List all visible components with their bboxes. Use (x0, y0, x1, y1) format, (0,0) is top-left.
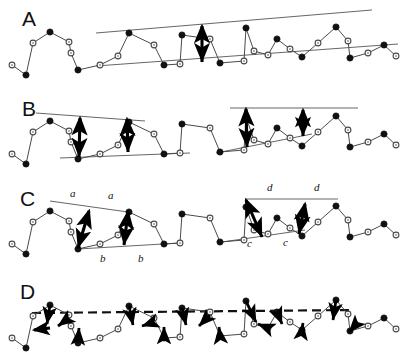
data-point-open-center (179, 336, 181, 338)
data-point-filled (243, 25, 249, 31)
data-point-filled (347, 144, 353, 150)
data-point-open-center (317, 42, 319, 44)
data-point-open-center (347, 313, 349, 315)
data-point-open-center (317, 315, 319, 317)
data-point-open-center (153, 317, 155, 319)
data-point-filled (333, 113, 339, 119)
data-point-open-center (253, 323, 255, 325)
data-point-open-center (347, 129, 349, 131)
data-point-open-center (395, 328, 397, 330)
data-point-filled (217, 60, 223, 66)
envelope-lower-right (222, 230, 305, 242)
data-point-filled (179, 121, 185, 127)
d-arrow-15 (333, 300, 336, 320)
data-point-open-center (347, 219, 349, 221)
d-arrow-1 (34, 328, 50, 330)
data-point-open-center (243, 239, 245, 241)
data-point-open-center (117, 144, 119, 146)
data-point-open-center (179, 63, 181, 65)
data-point-open-center (367, 325, 369, 327)
data-point-open-center (243, 60, 245, 62)
data-point-filled (23, 251, 29, 257)
panel-letter-C: C (20, 187, 35, 210)
data-point-filled (47, 29, 53, 35)
data-point-open-center (68, 41, 70, 43)
amplitude-arrow-b1 (79, 118, 80, 157)
label-d-left: d (267, 181, 273, 193)
label-b-right: b (138, 252, 144, 264)
data-point-filled (161, 241, 167, 247)
data-point-filled (381, 221, 387, 227)
data-point-open-center (11, 153, 13, 155)
data-point-filled (217, 149, 223, 155)
data-point-open-center (317, 131, 319, 133)
data-point-filled (161, 62, 167, 68)
data-point-open-center (117, 328, 119, 330)
data-point-open-center (209, 311, 211, 313)
data-point-open-center (99, 243, 101, 245)
data-point-filled (274, 125, 280, 131)
data-point-filled (299, 143, 305, 149)
data-point-open-center (367, 231, 369, 233)
amplitude-arrow-c2 (299, 204, 305, 234)
amplitude-arrow-a1 (78, 211, 89, 248)
panel-C: Caabbddcc (9, 181, 399, 264)
figure-canvas: ABCaabbddccD (0, 0, 412, 356)
d-arrow-9 (199, 315, 210, 326)
d-arrow-14 (302, 323, 303, 330)
data-point-open-center (153, 44, 155, 46)
data-point-filled (75, 67, 81, 73)
amplitude-arrow-b3 (246, 109, 247, 147)
data-point-open-center (243, 333, 245, 335)
data-point-open-center (68, 130, 70, 132)
label-d-right: d (314, 181, 320, 193)
label-b-left: b (100, 252, 106, 264)
data-point-open-center (347, 40, 349, 42)
data-point-filled (23, 345, 29, 351)
data-point-open-center (317, 221, 319, 223)
data-point-filled (23, 72, 29, 78)
data-point-filled (161, 151, 167, 157)
data-point-open-center (395, 144, 397, 146)
data-point-open-center (32, 131, 34, 133)
panel-B: B (9, 97, 399, 167)
data-point-open-center (99, 337, 101, 339)
data-point-filled (274, 36, 280, 42)
data-point-filled (381, 131, 387, 137)
data-point-open-center (11, 64, 13, 66)
d-arrow-4 (78, 328, 79, 343)
data-point-open-center (70, 141, 72, 143)
amplitude-arrow-b2 (127, 119, 128, 152)
data-point-filled (126, 30, 132, 36)
d-arrow-3 (58, 318, 69, 326)
data-point-open-center (179, 242, 181, 244)
data-point-filled (347, 234, 353, 240)
data-point-open-center (99, 64, 101, 66)
panel-letter-A: A (22, 7, 36, 30)
data-point-open-center (289, 137, 291, 139)
data-point-open-center (367, 52, 369, 54)
d-arrow-2 (47, 305, 50, 324)
data-point-open-center (253, 139, 255, 141)
panel-letter-B: B (22, 97, 36, 120)
panel-letter-D: D (20, 280, 35, 303)
data-point-filled (381, 315, 387, 321)
d-arrow-8 (182, 308, 186, 325)
data-point-open-center (367, 141, 369, 143)
trend-line-dashed (32, 310, 352, 313)
data-point-filled (333, 203, 339, 209)
figure-root: ABCaabbddccD (0, 0, 412, 356)
data-point-open-center (153, 133, 155, 135)
d-arrow-6 (142, 322, 154, 326)
data-point-open-center (395, 234, 397, 236)
amplitude-arrow-a2 (124, 212, 128, 245)
data-point-filled (179, 211, 185, 217)
data-point-filled (23, 161, 29, 167)
label-c-right: c (283, 236, 288, 248)
d-arrow-5 (129, 306, 133, 325)
data-point-open-center (267, 143, 269, 145)
data-point-filled (381, 42, 387, 48)
data-point-open-center (11, 243, 13, 245)
panel-A: A (9, 7, 399, 78)
data-point-open-center (70, 325, 72, 327)
